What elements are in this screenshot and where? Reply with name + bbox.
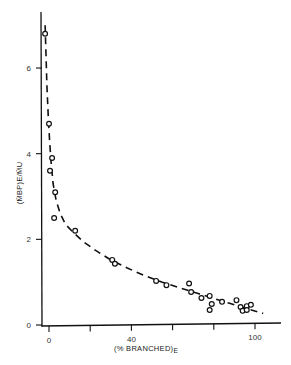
data-point [164,283,169,288]
data-point [48,168,53,173]
data-point [113,261,118,266]
data-point [244,308,249,313]
data-point [154,278,159,283]
data-point [234,298,239,303]
data-point [189,290,194,295]
fit-curve-path [45,25,263,313]
data-point [209,302,214,307]
y-tick-label: 2 [27,235,32,244]
data-point [47,121,52,126]
y-tick-label: 4 [27,150,32,159]
x-tick-label: 100 [248,333,262,342]
data-points [43,31,254,313]
y-axis-title: (M̄BP)E/M̄U [15,162,24,205]
x-axis-title: (% BRANCHED)E [114,344,178,354]
data-point [43,31,48,36]
x-tick-label: 40 [127,335,136,344]
axes: 0246040100 [27,12,281,345]
data-point [52,216,57,221]
y-axis-line [41,12,42,326]
data-point [220,299,225,304]
data-point [50,156,55,161]
data-point [207,308,212,313]
data-point [207,293,212,298]
x-axis-line [41,323,281,326]
y-tick-label: 0 [27,321,32,330]
chart: 0246040100 (% BRANCHED)E (M̄BP)E/M̄U [0,0,291,365]
x-tick-label: 0 [47,336,52,345]
y-tick-label: 6 [27,64,32,73]
fit-curve [45,25,263,313]
data-point [199,296,204,301]
data-point [73,228,78,233]
data-point [187,281,192,286]
data-point [248,302,253,307]
data-point [53,190,58,195]
